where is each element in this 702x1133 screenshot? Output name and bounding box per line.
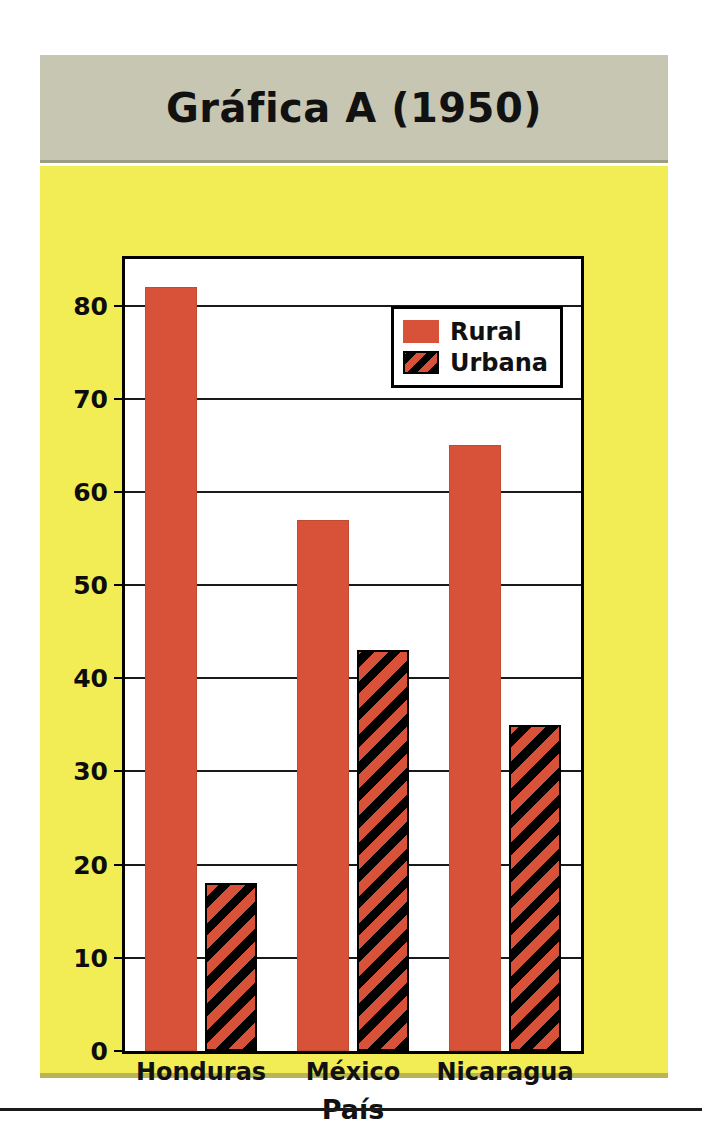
legend-swatch-urbana (403, 351, 439, 374)
legend-swatch-rural (403, 320, 439, 343)
legend-label-urbana: Urbana (450, 349, 548, 377)
x-axis-tick-label: Honduras (136, 1058, 266, 1086)
y-axis-tick (114, 677, 125, 679)
y-axis-tick-label: 40 (73, 664, 108, 693)
y-axis-tick (114, 957, 125, 959)
page-divider (0, 1108, 702, 1111)
y-axis-tick-label: 20 (73, 850, 108, 879)
y-axis-tick-label: 10 (73, 943, 108, 972)
x-axis-tick-label: México (306, 1058, 401, 1086)
y-axis-tick-labels: 01020304050607080 (40, 256, 108, 1054)
plot-area: Rural Urbana (122, 256, 584, 1054)
chart-panel: Población(%) 01020304050607080 Rural Urb… (40, 166, 668, 1078)
y-axis-tick (114, 770, 125, 772)
legend: Rural Urbana (391, 306, 563, 388)
y-axis-tick-label: 80 (73, 291, 108, 320)
y-axis-tick-label: 50 (73, 571, 108, 600)
x-axis-tick-labels: HondurasMéxicoNicaragua (122, 1058, 584, 1094)
y-axis-tick-label: 0 (91, 1037, 108, 1066)
x-axis-tick-label: Nicaragua (436, 1058, 573, 1086)
y-axis-tick-label: 70 (73, 384, 108, 413)
bar-urbana-nicaragua (509, 725, 561, 1051)
y-axis-tick-label: 30 (73, 757, 108, 786)
legend-item-rural: Rural (403, 316, 548, 347)
y-axis-tick (114, 491, 125, 493)
legend-label-rural: Rural (450, 318, 522, 346)
y-axis-tick (114, 584, 125, 586)
chart-title-band: Gráfica A (1950) (40, 55, 668, 163)
y-axis-tick-label: 60 (73, 477, 108, 506)
y-axis-tick (114, 398, 125, 400)
y-axis-tick (114, 305, 125, 307)
chart-title: Gráfica A (1950) (166, 85, 542, 131)
y-axis-tick (114, 864, 125, 866)
y-axis-tick (114, 1050, 125, 1052)
bar-rural-nicaragua (449, 445, 501, 1051)
legend-item-urbana: Urbana (403, 347, 548, 378)
figure-container: Gráfica A (1950) Población(%) 0102030405… (40, 55, 668, 1078)
